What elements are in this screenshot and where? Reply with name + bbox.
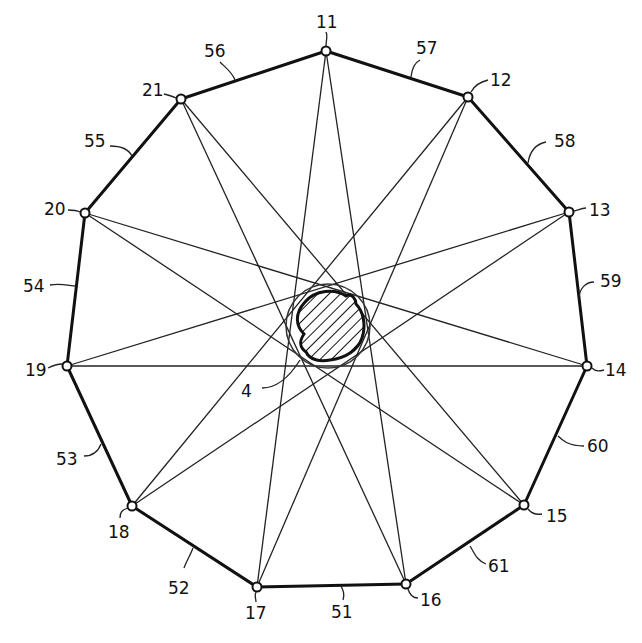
node-19 bbox=[63, 362, 72, 371]
leader-n21 bbox=[164, 94, 176, 98]
leader-59 bbox=[579, 282, 594, 297]
leader-n16 bbox=[408, 589, 418, 598]
node-21 bbox=[177, 95, 186, 104]
edge-58 bbox=[468, 97, 569, 212]
label-node-12: 12 bbox=[490, 70, 512, 90]
edge-57 bbox=[326, 51, 468, 97]
leader-n11 bbox=[326, 32, 327, 46]
edge-60 bbox=[524, 366, 587, 505]
leader-n14 bbox=[592, 368, 604, 371]
edge-54 bbox=[67, 213, 85, 366]
leader-n19 bbox=[48, 364, 62, 368]
label-edge-53: 53 bbox=[56, 449, 78, 469]
label-node-14: 14 bbox=[605, 360, 627, 380]
label-edge-52: 52 bbox=[168, 578, 190, 598]
central-object-4: 4 bbox=[241, 284, 370, 401]
node-12 bbox=[464, 93, 473, 102]
leader-56 bbox=[220, 62, 235, 80]
leader-n20 bbox=[68, 210, 80, 212]
leader-n15 bbox=[528, 509, 542, 514]
label-edge-60: 60 bbox=[587, 436, 609, 456]
leader-57b bbox=[411, 60, 420, 77]
leader-58 bbox=[528, 142, 546, 163]
leader-n13 bbox=[574, 208, 586, 211]
hatched-object bbox=[297, 291, 364, 361]
label-edge-61: 61 bbox=[488, 556, 510, 576]
leader-52 bbox=[184, 548, 193, 568]
node-15 bbox=[520, 501, 529, 510]
edge-59 bbox=[569, 212, 587, 366]
leader-n17 bbox=[255, 592, 256, 602]
node-11 bbox=[322, 47, 331, 56]
label-node-11: 11 bbox=[316, 12, 338, 32]
label-node-18: 18 bbox=[108, 522, 130, 542]
label-node-21: 21 bbox=[142, 80, 164, 100]
leader-4 bbox=[262, 360, 300, 388]
leader-60 bbox=[558, 436, 584, 446]
leader-55 bbox=[110, 146, 132, 156]
label-edge-57: 57 bbox=[416, 38, 438, 58]
leader-61 bbox=[470, 546, 486, 564]
edge-56 bbox=[181, 51, 326, 99]
diagram-figure: 4 57 58 59 60 61 51 52 53 54 bbox=[0, 0, 642, 643]
label-object-4: 4 bbox=[241, 381, 252, 401]
edge-51 bbox=[257, 584, 406, 587]
node-17 bbox=[253, 583, 262, 592]
edge-52 bbox=[132, 506, 257, 587]
label-edge-55: 55 bbox=[84, 131, 106, 151]
leader-n12 bbox=[471, 80, 488, 92]
chord-16-21 bbox=[181, 99, 406, 584]
chord-12-18 bbox=[132, 97, 468, 506]
label-edge-59: 59 bbox=[600, 271, 622, 291]
leader-54 bbox=[50, 284, 76, 286]
label-edge-58: 58 bbox=[554, 131, 576, 151]
chord-15-20 bbox=[85, 213, 524, 505]
label-node-16: 16 bbox=[420, 590, 442, 610]
label-edge-54: 54 bbox=[23, 276, 45, 296]
label-node-15: 15 bbox=[546, 506, 568, 526]
leader-51 bbox=[341, 586, 344, 600]
node-14 bbox=[583, 362, 592, 371]
label-node-20: 20 bbox=[44, 199, 66, 219]
leader-53 bbox=[84, 444, 101, 456]
edge-55 bbox=[85, 99, 181, 213]
leader-n18 bbox=[120, 508, 128, 518]
edge-53 bbox=[67, 366, 132, 506]
label-node-13: 13 bbox=[589, 200, 611, 220]
label-edge-51: 51 bbox=[331, 602, 353, 622]
node-20 bbox=[81, 209, 90, 218]
node-16 bbox=[402, 580, 411, 589]
label-edge-56: 56 bbox=[204, 41, 226, 61]
label-node-17: 17 bbox=[245, 603, 267, 623]
node-18 bbox=[128, 502, 137, 511]
node-13 bbox=[565, 208, 574, 217]
chord-13-18 bbox=[132, 212, 569, 506]
label-node-19: 19 bbox=[25, 360, 47, 380]
